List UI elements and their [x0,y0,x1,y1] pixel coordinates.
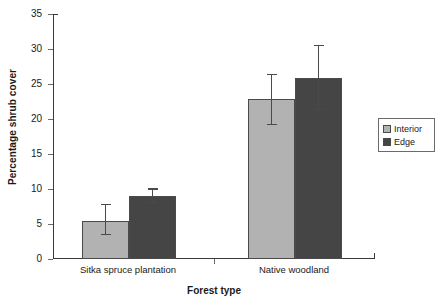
x-axis-category-label: Native woodland [214,264,374,276]
legend-label-interior: Interior [394,124,422,134]
y-axis-tick-label: 20 [0,114,42,124]
y-axis-tick-label: 25 [0,79,42,89]
error-bar-interior-2 [248,74,295,125]
error-bar-stem [318,45,319,110]
error-bar-cap-upper [101,204,111,205]
chart-figure: Percentage shrub cover 05101520253035 Si… [0,0,439,306]
error-bar-cap-upper [148,188,158,189]
error-bar-cap-lower [267,124,277,125]
error-bar-cap-lower [148,202,158,203]
error-bar-cap-lower [101,234,111,235]
x-axis-title: Forest type [53,285,375,297]
y-axis-tick-label: 0 [0,254,42,264]
error-bar-edge-1 [129,188,176,203]
legend-item-edge: Edge [383,135,431,148]
bar-edge-1 [129,196,176,259]
legend-swatch-icon-edge [383,138,391,146]
error-bar-stem [105,204,106,236]
legend-label-edge: Edge [394,137,415,147]
error-bar-cap-upper [267,74,277,75]
error-bar-interior-1 [82,204,129,236]
y-axis-tick-label: 30 [0,44,42,54]
error-bar-cap-lower [314,109,324,110]
y-axis-tick-label: 5 [0,219,42,229]
y-axis-tick-label: 10 [0,184,42,194]
y-axis-title: Percentage shrub cover [4,4,22,250]
x-axis-category-label: Sitka spruce plantation [48,264,208,276]
y-axis-tick-label: 15 [0,149,42,159]
y-axis-tick-label: 35 [0,9,42,19]
error-bar-cap-upper [314,45,324,46]
error-bar-edge-2 [295,45,342,110]
x-axis-right-cap [374,253,375,259]
legend-swatch-icon-interior [383,125,391,133]
plot-area [53,14,375,259]
legend-item-interior: Interior [383,122,431,135]
legend: Interior Edge [378,118,435,152]
error-bar-stem [271,74,272,125]
y-axis-top-cap [53,14,58,15]
